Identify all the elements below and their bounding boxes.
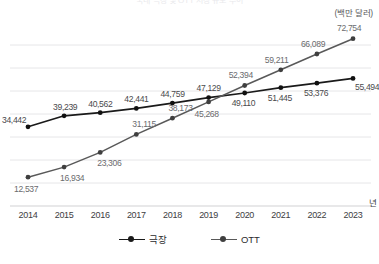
data-label: 55,494 bbox=[355, 82, 379, 92]
data-label: 53,376 bbox=[304, 88, 328, 98]
data-point bbox=[315, 81, 320, 86]
data-label: 45,268 bbox=[195, 109, 219, 119]
data-point bbox=[242, 91, 247, 96]
x-tick-2020: 2020 bbox=[225, 210, 265, 220]
data-label: 34,442 bbox=[2, 115, 26, 125]
data-label: 47,129 bbox=[197, 83, 221, 93]
data-point bbox=[206, 100, 211, 105]
data-point bbox=[26, 124, 31, 129]
data-label: 66,089 bbox=[301, 39, 325, 49]
data-label: 72,754 bbox=[337, 23, 361, 33]
line-chart-container: 국내 극장 및 OTT 시장 규모 추이 (백만 달러) 20142015201… bbox=[0, 0, 379, 264]
data-point bbox=[26, 175, 31, 180]
x-tick-2021: 2021 bbox=[261, 210, 301, 220]
data-point bbox=[134, 132, 139, 137]
data-label: 39,239 bbox=[53, 102, 77, 112]
data-label: 38,173 bbox=[168, 103, 192, 113]
data-label: 51,445 bbox=[268, 93, 292, 103]
data-point bbox=[351, 76, 356, 81]
data-label: 16,934 bbox=[60, 173, 84, 183]
data-label: 44,759 bbox=[160, 89, 184, 99]
data-label: 59,211 bbox=[265, 55, 289, 65]
x-axis-name-label: 년 bbox=[369, 196, 377, 208]
x-tick-2019: 2019 bbox=[189, 210, 229, 220]
data-label: 49,110 bbox=[232, 98, 256, 108]
data-point bbox=[278, 67, 283, 72]
data-point bbox=[206, 95, 211, 100]
data-point bbox=[134, 106, 139, 111]
legend-item-theater[interactable]: 극장 bbox=[119, 232, 167, 246]
data-label: 23,306 bbox=[97, 158, 121, 168]
x-tick-2018: 2018 bbox=[152, 210, 192, 220]
x-tick-2023: 2023 bbox=[333, 210, 373, 220]
data-label: 52,394 bbox=[229, 70, 253, 80]
x-tick-2016: 2016 bbox=[80, 210, 120, 220]
data-label: 31,115 bbox=[132, 119, 156, 129]
x-tick-2017: 2017 bbox=[116, 210, 156, 220]
data-point bbox=[170, 116, 175, 121]
legend-label-ott: OTT bbox=[241, 234, 259, 245]
data-point bbox=[278, 85, 283, 90]
data-point bbox=[315, 52, 320, 57]
x-tick-2022: 2022 bbox=[297, 210, 337, 220]
legend-item-ott[interactable]: OTT bbox=[211, 234, 259, 245]
data-point bbox=[98, 110, 103, 115]
data-point bbox=[62, 165, 67, 170]
data-point bbox=[98, 150, 103, 155]
x-tick-2014: 2014 bbox=[8, 210, 48, 220]
data-label: 40,562 bbox=[88, 99, 112, 109]
data-label: 12,537 bbox=[14, 184, 38, 194]
legend-marker-ott bbox=[211, 235, 237, 244]
data-point bbox=[62, 113, 67, 118]
legend-marker-theater bbox=[119, 235, 145, 244]
data-point bbox=[242, 83, 247, 88]
chart-legend: 극장 OTT bbox=[0, 232, 379, 246]
x-tick-2015: 2015 bbox=[44, 210, 84, 220]
data-label: 42,441 bbox=[124, 94, 148, 104]
data-point bbox=[351, 36, 356, 41]
legend-label-theater: 극장 bbox=[149, 232, 167, 246]
